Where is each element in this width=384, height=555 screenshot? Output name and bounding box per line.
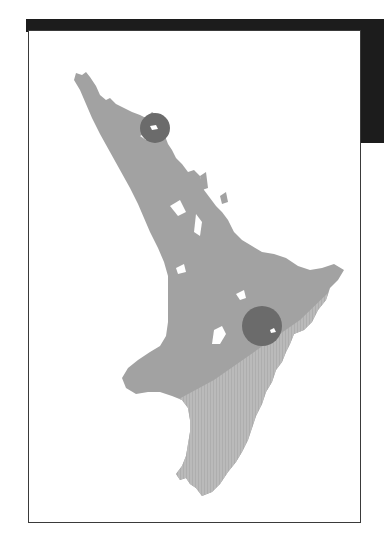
map-figure bbox=[0, 0, 384, 555]
north-island-map bbox=[0, 0, 384, 555]
marker-east[interactable] bbox=[242, 306, 282, 346]
